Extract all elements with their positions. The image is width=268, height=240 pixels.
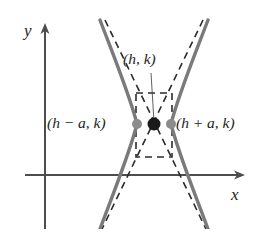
left-vertex-dot xyxy=(132,119,142,129)
y-axis-label: y xyxy=(24,22,32,39)
center-point-label: (h, k) xyxy=(123,51,156,67)
left-vertex-label: (h − a, k) xyxy=(47,115,106,131)
center-dot xyxy=(148,118,161,131)
x-axis-label: x xyxy=(231,186,239,203)
right-vertex-label: (h + a, k) xyxy=(176,115,235,131)
right-vertex-dot xyxy=(166,119,176,129)
center-label-leader-line xyxy=(151,73,154,122)
